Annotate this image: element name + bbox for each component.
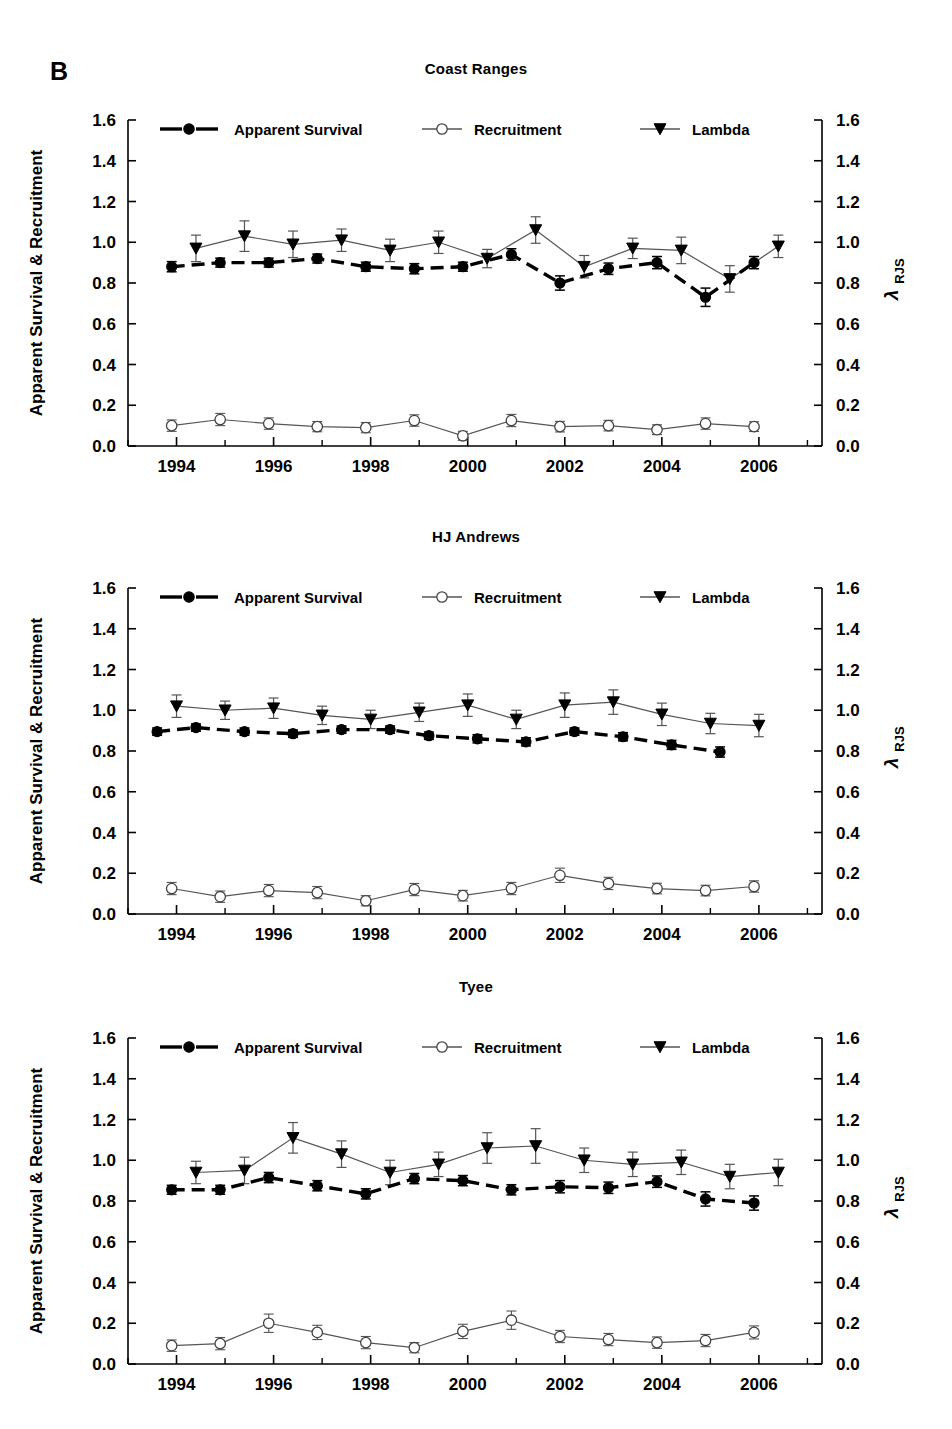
marker-open-circle [749,881,759,891]
marker-open-circle [361,422,371,432]
marker-filled-circle [555,1182,565,1192]
y-tick-label-left: 1.4 [92,152,116,171]
chart-legend: Apparent SurvivalRecruitmentLambda [160,589,750,606]
plot-area: 0.00.00.20.20.40.40.60.60.80.81.01.01.21… [0,996,952,1396]
y-tick-label-left: 1.4 [92,620,116,639]
x-tick-label: 2002 [546,457,584,476]
marker-filled-circle [424,731,434,741]
y-tick-label-right: 0.8 [836,742,860,761]
marker-filled-circle [652,258,662,268]
marker-filled-circle [385,725,395,735]
marker-filled-circle [184,592,194,602]
marker-filled-circle [167,262,177,272]
marker-filled-circle [555,278,565,288]
marker-open-circle [506,883,516,893]
marker-filled-circle [184,1042,194,1052]
x-tick-label: 2002 [546,925,584,944]
y-tick-label-left: 1.6 [92,579,116,598]
y-tick-label-right: 1.4 [836,620,860,639]
marker-open-circle [458,431,468,441]
marker-filled-circle [749,1198,759,1208]
marker-open-circle [603,878,613,888]
axis-lines [128,120,822,446]
marker-open-circle [215,1338,225,1348]
marker-filled-circle [603,264,613,274]
y-tick-label-left: 1.2 [92,193,116,212]
plot-area: 0.00.00.20.20.40.40.60.60.80.81.01.01.21… [0,546,952,946]
lambda-subscript: RJS [892,726,907,752]
x-tick-label: 2000 [449,457,487,476]
lambda-symbol: λ [881,758,902,770]
y-tick-label-left: 0.8 [92,1192,116,1211]
y-tick-label-right: 0.2 [836,1314,860,1333]
y-tick-label-left: 0.4 [92,1274,116,1293]
x-tick-label: 2006 [740,925,778,944]
marker-filled-circle [215,1185,225,1195]
series-line [172,254,754,297]
y-tick-label-right: 1.0 [836,1151,860,1170]
marker-open-circle [458,1326,468,1336]
marker-open-circle [312,421,322,431]
marker-filled-circle [749,258,759,268]
marker-open-circle [506,415,516,425]
marker-open-circle [312,887,322,897]
marker-filled-circle [361,1189,371,1199]
y-tick-label-left: 0.4 [92,356,116,375]
x-tick-label: 2006 [740,1375,778,1394]
marker-filled-circle [701,1194,711,1204]
lambda-symbol: λ [881,1208,902,1220]
marker-open-circle [166,420,176,430]
marker-filled-circle [667,740,677,750]
x-tick-group: 1994199619982000200220042006 [128,1355,807,1394]
y-tick-label-left: 1.0 [92,1151,116,1170]
y-tick-label-left: 0.6 [92,1233,116,1252]
marker-open-circle [312,1327,322,1337]
legend-label-recruitment: Recruitment [474,121,562,138]
y-tick-label-left: 1.0 [92,701,116,720]
marker-filled-circle [239,727,249,737]
lambda-symbol: λ [881,290,902,302]
marker-open-circle [409,884,419,894]
series-recruitment [166,868,759,906]
marker-filled-circle [312,254,322,264]
marker-filled-circle [167,1185,177,1195]
marker-filled-circle [361,262,371,272]
x-tick-label: 2004 [643,1375,681,1394]
marker-open-circle [264,418,274,428]
y-tick-label-right: 1.2 [836,193,860,212]
chart-legend: Apparent SurvivalRecruitmentLambda [160,121,750,138]
x-tick-label: 1994 [158,925,196,944]
x-tick-label: 2006 [740,457,778,476]
marker-open-circle [700,1335,710,1345]
y-axis-title-left: Apparent Survival & Recruitment [27,617,46,884]
marker-filled-circle [264,258,274,268]
y-tick-label-right: 0.0 [836,437,860,456]
series-lambda [190,217,784,292]
marker-filled-circle [652,1177,662,1187]
marker-open-circle [437,592,447,602]
marker-filled-circle [264,1173,274,1183]
y-tick-label-right: 1.0 [836,701,860,720]
marker-open-circle [458,890,468,900]
marker-filled-circle [152,727,162,737]
marker-filled-circle [409,1174,419,1184]
chart-panel-coast-ranges: Coast Ranges 0.00.00.20.20.40.40.60.60.8… [0,60,952,530]
x-tick-label: 2002 [546,1375,584,1394]
marker-filled-circle [288,729,298,739]
x-tick-label: 1994 [158,457,196,476]
y-tick-label-left: 0.8 [92,274,116,293]
y-axis-title-right: λRJS [881,1176,907,1219]
legend-label-recruitment: Recruitment [474,589,562,606]
series-recruitment [166,413,759,441]
marker-filled-circle [458,262,468,272]
marker-open-circle [749,421,759,431]
marker-open-circle [700,418,710,428]
panel-title: HJ Andrews [0,528,952,545]
chart-svg: 0.00.00.20.20.40.40.60.60.80.81.01.01.21… [0,546,952,946]
marker-open-circle [749,1327,759,1337]
marker-filled-circle [458,1176,468,1186]
marker-open-circle [652,425,662,435]
marker-filled-circle [569,727,579,737]
series-apparent-survival [152,723,725,758]
marker-open-circle [264,885,274,895]
